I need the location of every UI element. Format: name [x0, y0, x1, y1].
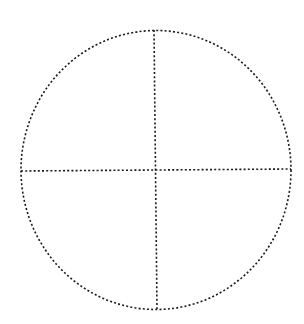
horizontal-divider-line [21, 169, 291, 171]
quadrant-circle-diagram [0, 0, 304, 324]
